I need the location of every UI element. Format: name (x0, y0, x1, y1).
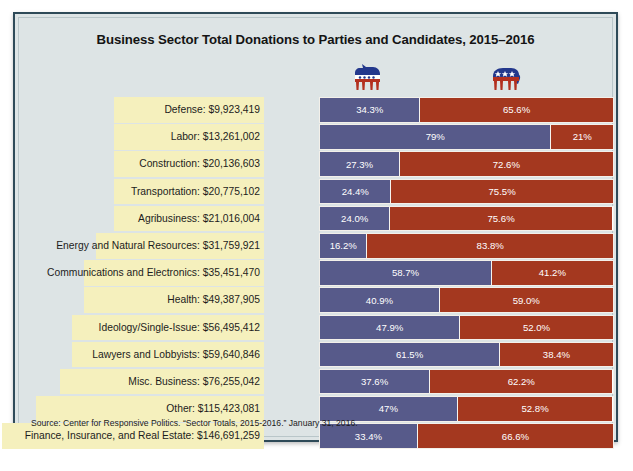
bar-segment-republican: 72.6% (400, 152, 613, 176)
stacked-bar: 58.7%41.2% (319, 260, 614, 286)
bar-row: Ideology/Single-Issue: $56,495,41247.9%5… (19, 315, 612, 341)
bar-segment-democrat: 16.2% (320, 234, 367, 258)
bar-row: Energy and Natural Resources: $31,759,92… (19, 233, 612, 259)
bar-segment-republican: 21% (551, 125, 613, 149)
row-label: Health: $49,387,905 (167, 287, 260, 313)
row-label: Energy and Natural Resources: $31,759,92… (56, 233, 260, 259)
bar-segment-democrat: 27.3% (320, 152, 400, 176)
bar-segment-democrat: 61.5% (320, 343, 500, 367)
chart-title: Business Sector Total Donations to Parti… (19, 32, 612, 47)
bar-segment-democrat: 24.4% (320, 180, 391, 204)
row-label: Communications and Electronics: $35,451,… (47, 260, 260, 286)
bar-row: Transportation: $20,775,10224.4%75.5% (19, 179, 612, 205)
bar-segment-republican: 75.6% (390, 207, 612, 231)
bar-row: Defense: $9,923,41934.3%65.6% (19, 97, 612, 123)
bar-segment-republican: 41.2% (492, 261, 613, 285)
legend-logos (19, 60, 612, 96)
bar-segment-democrat: 34.3% (320, 98, 420, 122)
stacked-bar: 37.6%62.2% (319, 369, 614, 395)
bar-segment-democrat: 79% (320, 125, 551, 149)
row-label: Defense: $9,923,419 (164, 97, 260, 123)
row-label: Transportation: $20,775,102 (131, 179, 260, 205)
bar-rows: Defense: $9,923,41934.3%65.6%Labor: $13,… (19, 97, 612, 450)
stacked-bar: 24.0%75.6% (319, 206, 614, 232)
bar-segment-democrat: 58.7% (320, 261, 492, 285)
bar-segment-republican: 65.6% (420, 98, 612, 122)
bar-segment-republican: 38.4% (500, 343, 613, 367)
bar-segment-republican: 52.0% (460, 316, 612, 340)
stacked-bar: 27.3%72.6% (319, 151, 614, 177)
stacked-bar: 47%52.8% (319, 396, 614, 422)
bar-row: Agribusiness: $21,016,00424.0%75.6% (19, 206, 612, 232)
row-label: Lawyers and Lobbyists: $59,640,846 (92, 342, 260, 368)
bar-segment-republican: 83.8% (367, 234, 613, 258)
bar-row: Lawyers and Lobbyists: $59,640,84661.5%3… (19, 342, 612, 368)
bar-segment-republican: 66.6% (418, 424, 613, 448)
chart-frame: Business Sector Total Donations to Parti… (13, 12, 618, 442)
bar-segment-republican: 52.8% (458, 397, 613, 421)
stacked-bar: 79%21% (319, 124, 614, 150)
row-label: Ideology/Single-Issue: $56,495,412 (99, 315, 260, 341)
stacked-bar: 34.3%65.6% (319, 97, 614, 123)
bar-segment-democrat: 24.0% (320, 207, 390, 231)
donkey-icon (349, 60, 385, 94)
stacked-bar: 16.2%83.8% (319, 233, 614, 259)
bar-row: Labor: $13,261,00279%21% (19, 124, 612, 150)
stacked-bar: 24.4%75.5% (319, 179, 614, 205)
bar-row: Misc. Business: $76,255,04237.6%62.2% (19, 369, 612, 395)
row-label: Labor: $13,261,002 (171, 124, 260, 150)
bar-segment-democrat: 47.9% (320, 316, 460, 340)
bar-segment-republican: 62.2% (430, 370, 612, 394)
source-note: Source: Center for Responsive Politics. … (31, 418, 358, 428)
bar-segment-republican: 75.5% (391, 180, 612, 204)
chart-inner-frame: Business Sector Total Donations to Parti… (18, 17, 613, 437)
stacked-bar: 47.9%52.0% (319, 315, 614, 341)
bar-segment-democrat: 37.6% (320, 370, 430, 394)
figure-root: Business Sector Total Donations to Parti… (0, 0, 633, 471)
stacked-bar: 40.9%59.0% (319, 287, 614, 313)
bar-row: Health: $49,387,90540.9%59.0% (19, 287, 612, 313)
stacked-bar: 61.5%38.4% (319, 342, 614, 368)
row-label: Construction: $20,136,603 (139, 151, 260, 177)
bar-row: Construction: $20,136,60327.3%72.6% (19, 151, 612, 177)
stacked-bar: 33.4%66.6% (319, 423, 614, 449)
bar-segment-republican: 59.0% (440, 288, 613, 312)
row-label: Misc. Business: $76,255,042 (128, 369, 260, 395)
row-label: Agribusiness: $21,016,004 (138, 206, 260, 232)
elephant-icon (488, 60, 524, 94)
bar-row: Communications and Electronics: $35,451,… (19, 260, 612, 286)
bar-segment-democrat: 40.9% (320, 288, 440, 312)
